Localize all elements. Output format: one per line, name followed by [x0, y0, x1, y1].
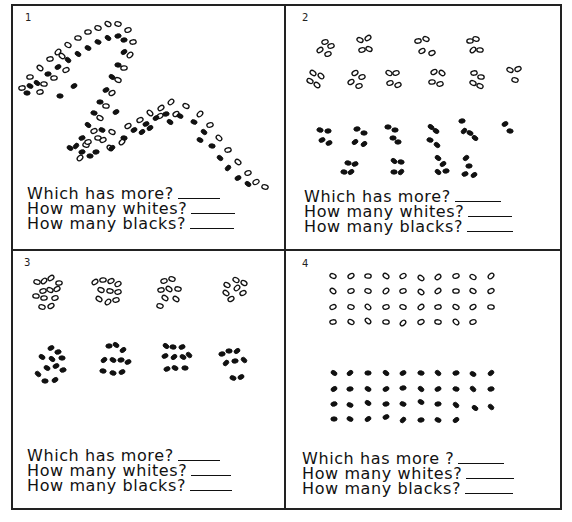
white-dot	[469, 274, 477, 281]
black-dot	[51, 376, 59, 383]
black-dot	[47, 345, 55, 352]
white-dot	[356, 37, 364, 44]
answer-blank[interactable]	[190, 228, 234, 229]
black-dot	[162, 342, 170, 349]
white-dot	[94, 25, 101, 31]
white-dot	[47, 274, 55, 281]
black-dot	[94, 39, 101, 45]
white-dot	[394, 82, 402, 89]
black-dot	[45, 71, 52, 76]
white-dot	[136, 117, 144, 124]
white-dot	[64, 42, 72, 49]
black-dot	[54, 349, 61, 355]
black-dot	[382, 369, 390, 376]
white-dot	[386, 80, 393, 86]
panel-2-dots	[306, 34, 522, 178]
white-dot	[96, 115, 104, 122]
black-dot	[54, 64, 62, 71]
black-dot	[351, 161, 358, 167]
answer-blank[interactable]	[466, 478, 514, 479]
white-dot	[469, 288, 477, 295]
white-dot	[36, 64, 44, 71]
white-dot	[90, 128, 98, 135]
white-dot	[365, 46, 373, 53]
answer-blank[interactable]	[467, 231, 513, 232]
black-dot	[346, 416, 354, 422]
black-dot	[121, 135, 128, 140]
black-dot	[104, 34, 112, 41]
black-dot	[112, 341, 120, 348]
white-dot	[114, 289, 121, 295]
answer-blank[interactable]	[190, 490, 232, 491]
white-dot	[417, 288, 425, 295]
white-dot	[392, 70, 399, 76]
white-dot	[104, 20, 112, 27]
black-dot	[344, 160, 351, 165]
white-dot	[358, 47, 365, 53]
black-dot	[325, 140, 333, 147]
white-dot	[104, 298, 112, 306]
answer-blank[interactable]	[191, 213, 235, 214]
black-dot	[346, 369, 354, 376]
black-dot	[452, 401, 460, 409]
black-dot	[385, 125, 392, 130]
white-dot	[428, 50, 436, 56]
black-dot	[316, 127, 323, 133]
white-dot	[365, 274, 371, 279]
answer-blank[interactable]	[468, 216, 512, 217]
white-dot	[471, 70, 478, 75]
black-dot	[130, 127, 138, 134]
panel-1-dots	[19, 20, 269, 189]
black-dot	[397, 168, 405, 176]
black-dot	[462, 154, 470, 161]
black-dot	[507, 128, 514, 133]
black-dot	[347, 386, 354, 391]
black-dot	[66, 145, 74, 152]
white-dot	[51, 76, 58, 81]
panel-4-dots	[329, 272, 495, 424]
black-dot	[109, 357, 117, 364]
black-dot	[234, 175, 242, 182]
white-dot	[76, 154, 84, 162]
answer-blank[interactable]	[465, 493, 513, 494]
white-dot	[84, 139, 91, 145]
black-dot	[166, 118, 174, 125]
black-dot	[399, 416, 407, 424]
black-dot	[353, 126, 360, 131]
white-dot	[511, 77, 518, 82]
white-dot	[313, 81, 321, 88]
black-dot	[466, 164, 473, 169]
black-dot	[382, 386, 390, 393]
white-dot	[382, 287, 390, 294]
answer-blank[interactable]	[458, 463, 504, 464]
white-dot	[418, 48, 426, 55]
answer-blank[interactable]	[191, 475, 231, 476]
white-dot	[435, 319, 442, 324]
black-dot	[399, 401, 406, 407]
white-dot	[309, 69, 317, 76]
white-dot	[316, 46, 324, 53]
white-dot	[430, 68, 438, 75]
white-dot	[222, 289, 230, 296]
white-dot	[452, 318, 460, 326]
white-dot	[351, 69, 359, 76]
white-dot	[234, 158, 242, 165]
white-dot	[329, 273, 337, 280]
black-dot	[382, 414, 390, 420]
black-dot	[364, 386, 372, 393]
black-dot	[365, 371, 371, 375]
panel-number: 3	[24, 257, 30, 268]
black-dot	[171, 365, 179, 372]
white-dot	[436, 81, 443, 87]
white-dot	[46, 287, 54, 294]
white-dot	[157, 104, 165, 111]
black-dot	[109, 370, 116, 376]
white-dot	[364, 303, 372, 311]
black-dot	[318, 137, 326, 143]
white-dot	[469, 80, 477, 87]
white-dot	[347, 304, 354, 310]
black-dot	[469, 385, 477, 393]
black-dot	[452, 386, 459, 392]
white-dot	[385, 70, 393, 77]
white-dot	[107, 278, 115, 285]
